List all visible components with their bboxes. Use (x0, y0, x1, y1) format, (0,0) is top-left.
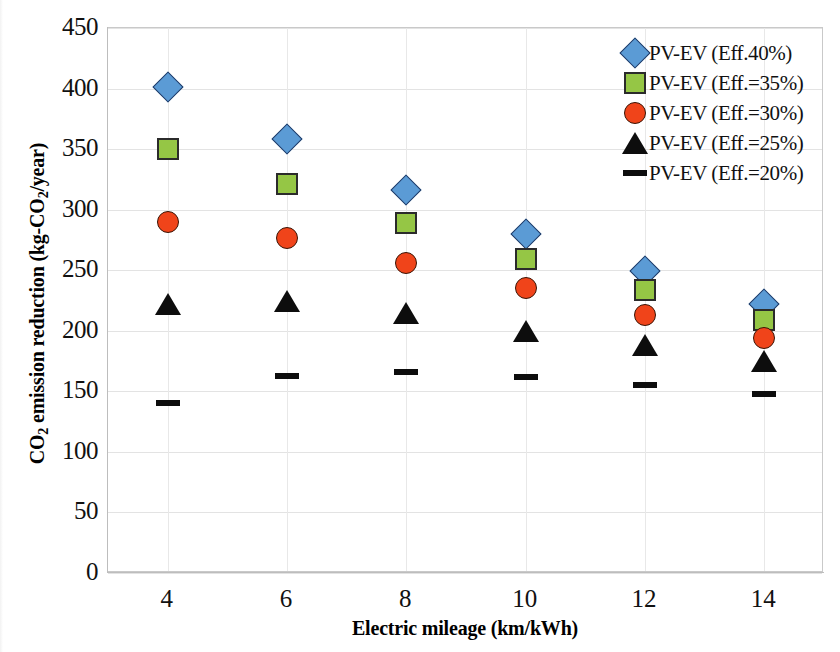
data-point-series5-x14 (752, 391, 776, 397)
x-tick-label-4: 4 (137, 586, 197, 611)
data-point-series5-x8 (394, 369, 418, 375)
legend-item-2[interactable]: PV-EV (Eff.=35%) (622, 68, 827, 98)
legend-label-1: PV-EV (Eff.40%) (649, 43, 792, 64)
legend-item-3[interactable]: PV-EV (Eff.=30%) (622, 98, 827, 128)
data-point-series1-x10 (510, 218, 541, 249)
data-point-series2-x12 (634, 279, 656, 301)
gridline-x-10 (526, 28, 527, 571)
gridline-y-150 (108, 391, 822, 392)
data-point-series5-x12 (633, 382, 657, 388)
data-point-series3-x14 (753, 327, 775, 349)
gridline-y-200 (108, 331, 822, 332)
data-point-series1-x6 (271, 124, 302, 155)
data-point-series3-x12 (634, 304, 656, 326)
gridline-y-300 (108, 210, 822, 211)
data-point-series1-x8 (391, 175, 422, 206)
x-tick-label-10: 10 (495, 586, 555, 611)
data-point-series5-x6 (275, 373, 299, 379)
legend-item-4[interactable]: PV-EV (Eff.=25%) (622, 128, 827, 158)
data-point-series4-x8 (393, 302, 419, 324)
y-axis-line (107, 27, 108, 573)
y-axis-title-part3: /year) (26, 143, 48, 192)
y-axis-title-part1: CO (26, 435, 48, 465)
data-point-series3-x10 (515, 277, 537, 299)
y-axis-title-part2: emission reduction (kg-CO (26, 198, 48, 427)
legend-marker-triangle-icon (622, 130, 648, 156)
data-point-series3-x6 (276, 227, 298, 249)
x-axis-title: Electric mileage (km/kWh) (107, 617, 823, 640)
data-point-series4-x4 (155, 293, 181, 315)
legend-label-2: PV-EV (Eff.=35%) (649, 73, 803, 94)
x-axis-title-text: Electric mileage (km/kWh) (352, 617, 578, 639)
gridline-y-250 (108, 270, 822, 271)
data-point-series4-x10 (513, 320, 539, 342)
gridline-y-0 (108, 573, 822, 574)
legend-label-4: PV-EV (Eff.=25%) (649, 133, 803, 154)
data-point-series2-x10 (515, 248, 537, 270)
gridline-y-50 (108, 512, 822, 513)
x-tick-label-14: 14 (733, 586, 793, 611)
y-axis-title-sub1: 2 (36, 428, 51, 435)
gridline-y-100 (108, 452, 822, 453)
data-point-series1-x4 (152, 72, 183, 103)
y-axis-title: CO2 emission reduction (kg-CO2/year) (26, 24, 49, 584)
legend: PV-EV (Eff.40%)PV-EV (Eff.=35%)PV-EV (Ef… (622, 38, 827, 188)
data-point-series5-x4 (156, 400, 180, 406)
gridline-x-8 (406, 28, 407, 571)
chart-figure: 050100150200250300350400450 468101214 El… (0, 0, 840, 652)
data-point-series5-x10 (514, 374, 538, 380)
x-tick-label-6: 6 (256, 586, 316, 611)
legend-marker-diamond-icon (622, 40, 648, 66)
data-point-series2-x6 (276, 173, 298, 195)
data-point-series4-x6 (274, 290, 300, 312)
x-tick-label-12: 12 (614, 586, 674, 611)
legend-marker-square-icon (622, 70, 648, 96)
x-tick-label-8: 8 (375, 586, 435, 611)
data-point-series3-x4 (157, 211, 179, 233)
page-edge-artifact (0, 0, 3, 652)
legend-label-5: PV-EV (Eff.=20%) (649, 163, 803, 184)
y-axis-title-sub2: 2 (36, 192, 51, 199)
legend-item-1[interactable]: PV-EV (Eff.40%) (622, 38, 827, 68)
data-point-series2-x8 (395, 212, 417, 234)
legend-marker-circle-icon (622, 100, 648, 126)
x-axis-line (107, 572, 824, 573)
legend-marker-dash-icon (622, 160, 648, 186)
data-point-series3-x8 (395, 252, 417, 274)
data-point-series4-x14 (751, 350, 777, 372)
data-point-series2-x4 (157, 138, 179, 160)
data-point-series4-x12 (632, 334, 658, 356)
legend-item-5[interactable]: PV-EV (Eff.=20%) (622, 158, 827, 188)
legend-label-3: PV-EV (Eff.=30%) (649, 103, 803, 124)
gridline-y-450 (108, 28, 822, 29)
